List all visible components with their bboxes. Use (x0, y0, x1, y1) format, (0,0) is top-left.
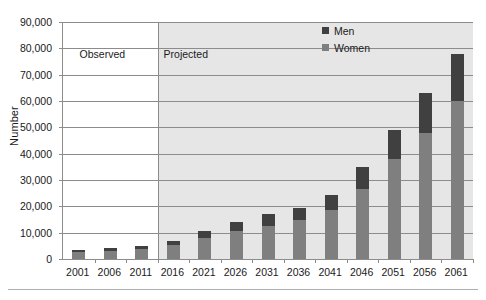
gridline (63, 75, 473, 76)
bar-segment-men (325, 195, 338, 211)
y-tick-mark (59, 101, 63, 102)
y-tick-mark (59, 180, 63, 181)
gridline (63, 101, 473, 102)
x-tick-label: 2001 (66, 266, 89, 278)
x-axis-tick-labels: 2001200620112016202120262031203620412046… (62, 266, 473, 282)
bar-segment-men (388, 130, 401, 159)
plot-inner: Observed Projected (63, 22, 473, 259)
y-tick-label: 50,000 (20, 121, 52, 133)
x-tick-label: 2051 (381, 266, 404, 278)
y-tick-label: 40,000 (20, 148, 52, 160)
bar-segment-women (135, 249, 148, 259)
y-tick-label: 70,000 (20, 69, 52, 81)
bar-segment-men (293, 208, 306, 221)
period-divider-line (158, 22, 159, 259)
bar-segment-men (356, 167, 369, 189)
y-tick-mark (59, 259, 63, 260)
gridline (63, 154, 473, 155)
bar-segment-women (388, 159, 401, 259)
bar-segment-women (451, 101, 464, 259)
x-tick-mark (95, 259, 96, 263)
x-tick-label: 2006 (98, 266, 121, 278)
bar-segment-women (356, 189, 369, 259)
x-tick-mark (410, 259, 411, 263)
bar-group (72, 250, 85, 259)
y-tick-mark (59, 154, 63, 155)
bar-segment-men (198, 231, 211, 238)
x-tick-mark (252, 259, 253, 263)
x-tick-label: 2056 (413, 266, 436, 278)
bar-group (293, 208, 306, 259)
bar-segment-men (135, 246, 148, 249)
bar-segment-women (325, 210, 338, 259)
x-tick-label: 2041 (318, 266, 341, 278)
population-projection-chart: Number 010,00020,00030,00040,00050,00060… (0, 0, 486, 300)
bar-segment-men (230, 222, 243, 231)
gridline (63, 180, 473, 181)
y-tick-mark (59, 233, 63, 234)
x-tick-mark (221, 259, 222, 263)
bar-group (388, 130, 401, 259)
y-tick-label: 90,000 (20, 16, 52, 28)
y-tick-label: 30,000 (20, 174, 52, 186)
bar-group (198, 231, 211, 259)
legend-item-women: Women (322, 39, 412, 56)
bar-segment-women (230, 231, 243, 259)
legend-swatch-men (322, 27, 329, 34)
y-tick-label: 60,000 (20, 95, 52, 107)
legend-label-men: Men (334, 25, 354, 37)
x-tick-mark (126, 259, 127, 263)
bar-group (230, 222, 243, 259)
bar-segment-women (262, 226, 275, 259)
gridline (63, 127, 473, 128)
chart-legend: Men Women (322, 22, 412, 56)
x-tick-label: 2011 (130, 266, 153, 278)
observed-label: Observed (80, 48, 126, 60)
bar-segment-women (419, 133, 432, 259)
bar-segment-men (419, 93, 432, 133)
x-tick-label: 2031 (255, 266, 278, 278)
bar-group (451, 54, 464, 259)
bar-group (419, 93, 432, 259)
y-tick-mark (59, 22, 63, 23)
bar-segment-men (262, 214, 275, 225)
bar-segment-men (72, 250, 85, 252)
x-tick-label: 2026 (224, 266, 247, 278)
y-tick-label: 80,000 (20, 42, 52, 54)
projected-label: Projected (164, 48, 208, 60)
legend-label-women: Women (334, 42, 370, 54)
bar-group (262, 214, 275, 259)
gridline (63, 206, 473, 207)
x-tick-mark (378, 259, 379, 263)
y-tick-mark (59, 48, 63, 49)
x-tick-label: 2021 (192, 266, 215, 278)
bottom-rule (8, 289, 478, 290)
bar-group (167, 241, 180, 259)
x-tick-label: 2036 (287, 266, 310, 278)
y-tick-mark (59, 206, 63, 207)
y-axis-tick-labels: 010,00020,00030,00040,00050,00060,00070,… (0, 0, 58, 300)
x-tick-label: 2046 (350, 266, 373, 278)
x-tick-mark (158, 259, 159, 263)
y-tick-mark (59, 75, 63, 76)
plot-area: Observed Projected (62, 22, 473, 260)
legend-swatch-women (322, 44, 329, 51)
legend-item-men: Men (322, 22, 412, 39)
bar-segment-men (451, 54, 464, 101)
bar-group (104, 248, 117, 259)
x-tick-mark (315, 259, 316, 263)
bar-segment-men (104, 248, 117, 251)
bar-group (135, 246, 148, 259)
bar-segment-women (72, 252, 85, 259)
bar-group (325, 194, 338, 259)
bar-segment-women (104, 251, 117, 259)
x-tick-mark (473, 259, 474, 263)
y-tick-label: 20,000 (20, 200, 52, 212)
y-tick-label: 10,000 (20, 227, 52, 239)
x-tick-label: 2016 (161, 266, 184, 278)
x-tick-mark (189, 259, 190, 263)
x-tick-mark (441, 259, 442, 263)
bar-group (356, 167, 369, 259)
bar-segment-women (198, 238, 211, 259)
y-tick-mark (59, 127, 63, 128)
